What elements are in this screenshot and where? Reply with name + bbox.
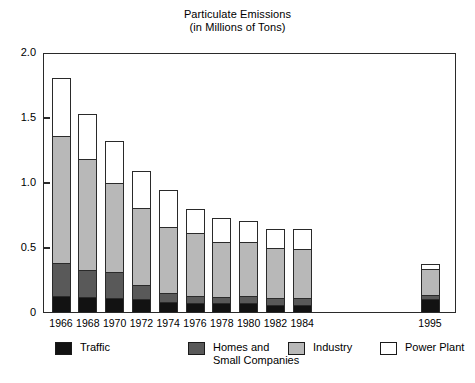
legend-item-industry: Industry	[288, 341, 352, 355]
chart-title: Particulate Emissions	[0, 8, 475, 21]
x-tick-label-1995: 1995	[410, 318, 450, 329]
bar-segment-homes-and-small-companies	[79, 271, 96, 298]
bar-segment-homes-and-small-companies	[160, 294, 177, 303]
bar-segment-traffic	[160, 303, 177, 312]
bar-segment-traffic	[187, 304, 204, 312]
bar-segment-traffic	[53, 297, 70, 312]
chart-legend: TrafficHomes and Small CompaniesIndustry…	[0, 341, 475, 381]
bar-1976	[186, 209, 205, 313]
legend-label: Traffic	[80, 341, 110, 354]
bar-1984	[293, 229, 312, 314]
bar-segment-homes-and-small-companies	[240, 297, 257, 305]
bar-segment-power-plant	[187, 210, 204, 234]
bar-1972	[132, 171, 151, 313]
legend-swatch-icon	[380, 342, 397, 355]
legend-label: Homes and Small Companies	[213, 341, 299, 366]
particulate-emissions-chart: Particulate Emissions (in Millions of To…	[0, 0, 475, 383]
legend-swatch-icon	[55, 342, 72, 355]
bar-segment-power-plant	[294, 230, 311, 250]
bar-segment-industry	[79, 160, 96, 271]
bar-segment-homes-and-small-companies	[133, 286, 150, 300]
bar-segment-homes-and-small-companies	[106, 273, 123, 299]
x-tick-label-1984: 1984	[282, 318, 322, 329]
bar-segment-homes-and-small-companies	[187, 297, 204, 305]
bar-segment-power-plant	[267, 230, 284, 249]
bar-segment-industry	[133, 209, 150, 286]
legend-swatch-icon	[188, 342, 205, 355]
bar-segment-industry	[187, 234, 204, 296]
bar-segment-traffic	[267, 306, 284, 312]
bar-segment-power-plant	[213, 219, 230, 243]
bar-segment-industry	[267, 249, 284, 300]
bar-segment-industry	[53, 137, 70, 265]
bar-segment-traffic	[294, 306, 311, 312]
bar-1966	[52, 78, 71, 313]
bar-segment-traffic	[133, 300, 150, 312]
bar-segment-homes-and-small-companies	[53, 264, 70, 296]
bar-segment-industry	[422, 270, 439, 296]
bar-1978	[212, 218, 231, 313]
bar-segment-industry	[160, 228, 177, 295]
bar-segment-industry	[213, 243, 230, 298]
bar-segment-traffic	[240, 304, 257, 312]
legend-label: Industry	[313, 341, 352, 354]
bar-segment-power-plant	[133, 172, 150, 209]
legend-label: Power Plant	[405, 341, 464, 354]
bar-segment-traffic	[422, 300, 439, 312]
y-tick-label: 1.5	[0, 112, 36, 123]
bar-segment-industry	[294, 250, 311, 299]
bar-segment-traffic	[106, 299, 123, 312]
y-tick-label: 1.0	[0, 177, 36, 188]
y-tick-label: 2.0	[0, 47, 36, 58]
bar-segment-power-plant	[160, 191, 177, 228]
legend-swatch-icon	[288, 342, 305, 355]
y-tick-label: 0.5	[0, 242, 36, 253]
bar-1982	[266, 229, 285, 314]
legend-item-homes-and-small-companies: Homes and Small Companies	[188, 341, 299, 366]
bar-1974	[159, 190, 178, 314]
bar-segment-power-plant	[106, 142, 123, 183]
bar-segment-industry	[240, 243, 257, 296]
chart-title-block: Particulate Emissions (in Millions of To…	[0, 8, 475, 34]
bar-segment-power-plant	[53, 79, 70, 137]
bar-1970	[105, 141, 124, 313]
bar-1980	[239, 221, 258, 313]
bar-segment-power-plant	[79, 115, 96, 160]
bar-segment-industry	[106, 184, 123, 274]
legend-item-power-plant: Power Plant	[380, 341, 464, 355]
bar-segment-power-plant	[240, 222, 257, 244]
bar-segment-traffic	[213, 304, 230, 312]
chart-subtitle: (in Millions of Tons)	[0, 21, 475, 34]
bar-1968	[78, 114, 97, 313]
bar-1995	[421, 264, 440, 313]
legend-item-traffic: Traffic	[55, 341, 110, 355]
y-tick-label: 0	[0, 307, 36, 318]
bars-layer	[43, 53, 456, 313]
bar-segment-traffic	[79, 298, 96, 312]
